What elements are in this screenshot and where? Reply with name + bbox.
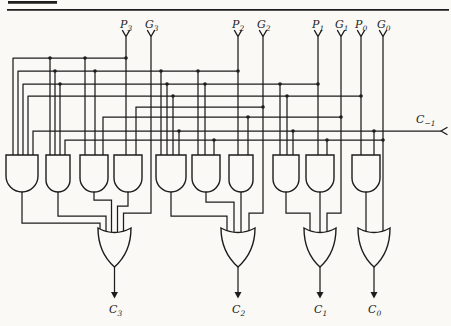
and-gate-p1g0 bbox=[306, 155, 334, 192]
junction-dot bbox=[196, 69, 200, 73]
junction-dot bbox=[53, 69, 57, 73]
junction-dot bbox=[124, 56, 128, 60]
junction-dot bbox=[261, 105, 265, 109]
input-pin-p1: P1 bbox=[311, 18, 324, 37]
input-arrowhead-p2-icon bbox=[235, 31, 242, 37]
junction-dot bbox=[278, 82, 282, 86]
input-pin-p2: P2 bbox=[231, 18, 244, 37]
output-pin-c0: C0 bbox=[368, 267, 381, 318]
junction-dot bbox=[171, 94, 175, 98]
net-or2-inputs bbox=[171, 192, 241, 234]
junction-dot bbox=[285, 94, 289, 98]
or-gates bbox=[98, 228, 390, 267]
junction-dot bbox=[236, 69, 240, 73]
and-gates bbox=[6, 155, 380, 192]
junction-dot bbox=[203, 82, 207, 86]
input-arrowhead-g3-icon bbox=[148, 31, 155, 37]
input-arrowhead-g0-icon bbox=[380, 31, 387, 37]
output-arrowhead-c1-icon bbox=[317, 292, 324, 299]
or-gate-c3 bbox=[98, 228, 131, 267]
junction-dot bbox=[325, 138, 329, 142]
output-arrowhead-c0-icon bbox=[371, 292, 378, 299]
junction-dot bbox=[316, 82, 320, 86]
input-pin-g0: G0 bbox=[377, 18, 391, 37]
input-arrowhead-p0-icon bbox=[358, 31, 365, 37]
input-pin-p0: P0 bbox=[354, 18, 367, 37]
output-label-c3: C3 bbox=[109, 303, 122, 318]
input-label-p0: P0 bbox=[354, 18, 367, 33]
junction-dot bbox=[58, 82, 62, 86]
junction-dot bbox=[291, 129, 295, 133]
input-pin-g3: G3 bbox=[145, 18, 159, 37]
and-gate-p1p0c bbox=[273, 155, 299, 192]
net-or1-inputs bbox=[22, 192, 128, 234]
and-gate-p0c bbox=[352, 155, 380, 192]
junction-dot bbox=[246, 115, 250, 119]
input-arrowhead-p3-icon bbox=[123, 31, 130, 37]
junction-dot bbox=[48, 56, 52, 60]
and-gate-p3p2p1p0c bbox=[6, 155, 38, 192]
carry-lookahead-circuit-diagram: P3 G3 P2 G2 P1 G1 P0 G0 bbox=[0, 0, 451, 326]
junction-dot bbox=[177, 129, 181, 133]
input-label-p3: P3 bbox=[119, 18, 132, 33]
output-pin-c1: C1 bbox=[314, 267, 327, 318]
junction-dot bbox=[83, 56, 87, 60]
output-label-c1: C1 bbox=[314, 303, 327, 318]
output-label-c2: C2 bbox=[232, 303, 245, 318]
junction-dot bbox=[359, 94, 363, 98]
junction-dot bbox=[381, 138, 385, 142]
input-pins: P3 G3 P2 G2 P1 G1 P0 G0 bbox=[119, 18, 391, 37]
junction-dot bbox=[372, 129, 376, 133]
and-gate-p2p1g0 bbox=[192, 155, 220, 192]
input-arrowhead-p1-icon bbox=[315, 31, 322, 37]
or-gate-c0 bbox=[358, 228, 390, 267]
net-or3-inputs bbox=[286, 192, 320, 234]
input-arrowhead-g1-icon bbox=[338, 31, 345, 37]
output-pins: C3 C2 C1 C0 bbox=[109, 267, 381, 318]
output-label-c0: C0 bbox=[368, 303, 381, 318]
or-gate-c2 bbox=[221, 228, 255, 267]
input-pin-p3: P3 bbox=[119, 18, 132, 37]
and-gate-p2p1p0c bbox=[156, 155, 186, 192]
output-arrowhead-c3-icon bbox=[111, 292, 118, 299]
or-gate-c1 bbox=[304, 228, 336, 267]
junction-dot bbox=[212, 138, 216, 142]
carry-in-label: C−1 bbox=[416, 113, 435, 128]
output-pin-c3: C3 bbox=[109, 267, 122, 318]
input-label-p2: P2 bbox=[231, 18, 244, 33]
output-pin-c2: C2 bbox=[232, 267, 245, 318]
and-gate-p3p2g1 bbox=[80, 155, 108, 192]
junction-dot bbox=[165, 82, 169, 86]
carry-in-arrowhead-icon bbox=[441, 128, 447, 135]
junction-dot bbox=[93, 69, 97, 73]
input-arrowhead-g2-icon bbox=[260, 31, 267, 37]
input-pin-g2: G2 bbox=[257, 18, 271, 37]
junction-dots bbox=[48, 56, 385, 142]
net-g1 bbox=[103, 37, 341, 234]
input-pin-g1: G1 bbox=[335, 18, 349, 37]
net-carry-in bbox=[33, 131, 441, 155]
net-g0 bbox=[65, 37, 383, 234]
book-page: P3 G3 P2 G2 P1 G1 P0 G0 bbox=[0, 0, 451, 326]
and-gate-p3p2p1g0 bbox=[46, 155, 70, 192]
junction-dot bbox=[339, 115, 343, 119]
net-g2 bbox=[136, 37, 263, 234]
junction-dot bbox=[159, 69, 163, 73]
net-p0 bbox=[28, 37, 361, 155]
and-gate-p3g2 bbox=[114, 155, 142, 192]
and-gate-p2g1 bbox=[229, 155, 253, 192]
input-label-p1: P1 bbox=[311, 18, 324, 33]
wire-nets bbox=[13, 37, 441, 234]
page-rules bbox=[7, 2, 449, 9]
output-arrowhead-c2-icon bbox=[235, 292, 242, 299]
